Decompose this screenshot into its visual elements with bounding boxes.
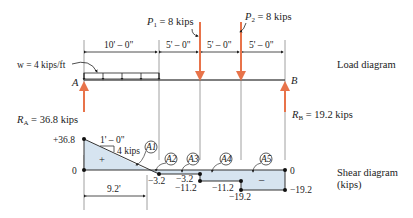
value-v1: −3.2 (148, 176, 165, 186)
value-start: +36.8 (53, 135, 75, 145)
shear-diagram-units: (kips) (337, 179, 362, 191)
area-a3-label: A3 (187, 154, 199, 164)
slope-run-label: 1' – 0" (100, 135, 125, 145)
load-diagram-label: Load diagram (337, 59, 396, 70)
shear-diagram-label: Shear diagram (337, 167, 398, 178)
distributed-load-label: w = 4 kips/ft (17, 60, 66, 70)
p1-label: P1 = 8 kips (146, 16, 193, 29)
reaction-a-label: RA = 36.8 kips (16, 114, 78, 127)
distributed-load (72, 62, 159, 80)
dim-4: 5' – 0" (249, 40, 274, 50)
value-zero-left: 0 (72, 166, 77, 176)
beam-diagram: 10' – 0" 5' – 0" 5' – 0" 5' – 0" w = 4 k… (0, 0, 413, 218)
reaction-b-label: RB = 19.2 kips (291, 109, 353, 122)
plus-sign: + (99, 154, 105, 165)
area-a4-label: A4 (220, 154, 232, 164)
p2-label: P2 = 8 kips (244, 11, 291, 24)
value-v3: −11.2 (175, 183, 197, 193)
area-a5-label: A5 (260, 154, 272, 164)
dim-3: 5' – 0" (207, 40, 232, 50)
minus-sign: – (258, 174, 265, 185)
support-a-label: A (71, 77, 79, 88)
area-a2-label: A2 (165, 154, 177, 164)
value-v5: −19.2 (229, 192, 251, 202)
dim-1: 10' – 0" (104, 40, 133, 50)
dim-2: 5' – 0" (166, 40, 191, 50)
slope-rise-label: 4 kips (117, 146, 140, 156)
value-zero-right: 0 (290, 166, 295, 176)
area-a1-label: A1 (145, 142, 157, 152)
value-v6: −19.2 (290, 185, 312, 195)
zero-crossing-label: 9.2' (107, 184, 121, 194)
support-b-label: B (291, 75, 298, 86)
